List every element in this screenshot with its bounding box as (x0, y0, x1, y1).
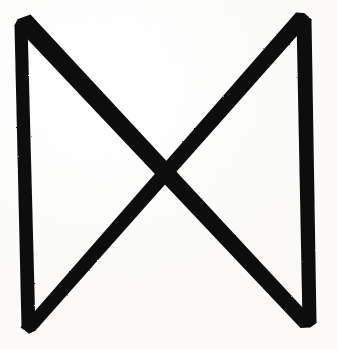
left-vertical-stroke (15, 19, 36, 334)
image-canvas (0, 0, 337, 349)
ink-strokes (15, 13, 317, 334)
glyph-svg (0, 0, 337, 349)
right-vertical-stroke (297, 13, 317, 328)
bowtie-rune-mark (0, 0, 337, 349)
